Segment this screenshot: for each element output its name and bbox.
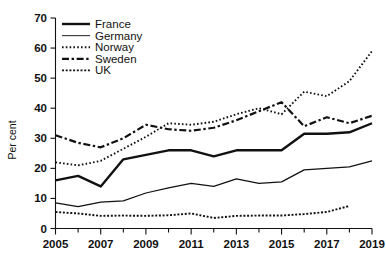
x-tick-label: 2005	[43, 238, 69, 250]
y-tick-label: 40	[34, 102, 47, 114]
x-tick-label: 2007	[88, 238, 114, 250]
chart-legend: FranceGermanyNorwaySwedenUK	[62, 18, 143, 76]
x-tick-label: 2015	[269, 238, 295, 250]
series-line-uk	[56, 206, 350, 218]
y-tick-labels: 010203040506070	[34, 12, 47, 235]
legend-label-france: France	[95, 18, 131, 30]
y-tick-label: 10	[34, 192, 47, 204]
x-tick-label: 2013	[224, 238, 250, 250]
legend-label-norway: Norway	[95, 41, 134, 53]
x-tick-label: 2011	[179, 238, 205, 250]
legend-label-uk: UK	[95, 64, 111, 76]
x-tick-marks	[56, 229, 373, 235]
x-tick-label: 2017	[314, 238, 340, 250]
y-tick-label: 70	[34, 12, 47, 24]
y-tick-label: 0	[41, 223, 47, 235]
legend-label-sweden: Sweden	[95, 53, 137, 65]
x-tick-labels: 20052007200920112013201520172019	[43, 238, 385, 250]
chart-canvas: 010203040506070 200520072009201120132015…	[0, 0, 386, 266]
y-axis-label: Per cent	[6, 120, 18, 159]
x-tick-label: 2019	[359, 238, 385, 250]
y-tick-marks	[51, 18, 56, 229]
line-chart: 010203040506070 200520072009201120132015…	[0, 0, 386, 266]
series-line-sweden	[56, 102, 373, 147]
x-tick-label: 2009	[133, 238, 159, 250]
y-tick-label: 20	[34, 162, 47, 174]
legend-label-germany: Germany	[95, 30, 143, 42]
series-line-france	[56, 123, 373, 186]
y-tick-label: 50	[34, 72, 47, 84]
y-axis: 010203040506070	[34, 12, 55, 235]
y-tick-label: 30	[34, 132, 47, 144]
y-tick-label: 60	[34, 42, 47, 54]
x-axis: 20052007200920112013201520172019	[43, 229, 385, 251]
